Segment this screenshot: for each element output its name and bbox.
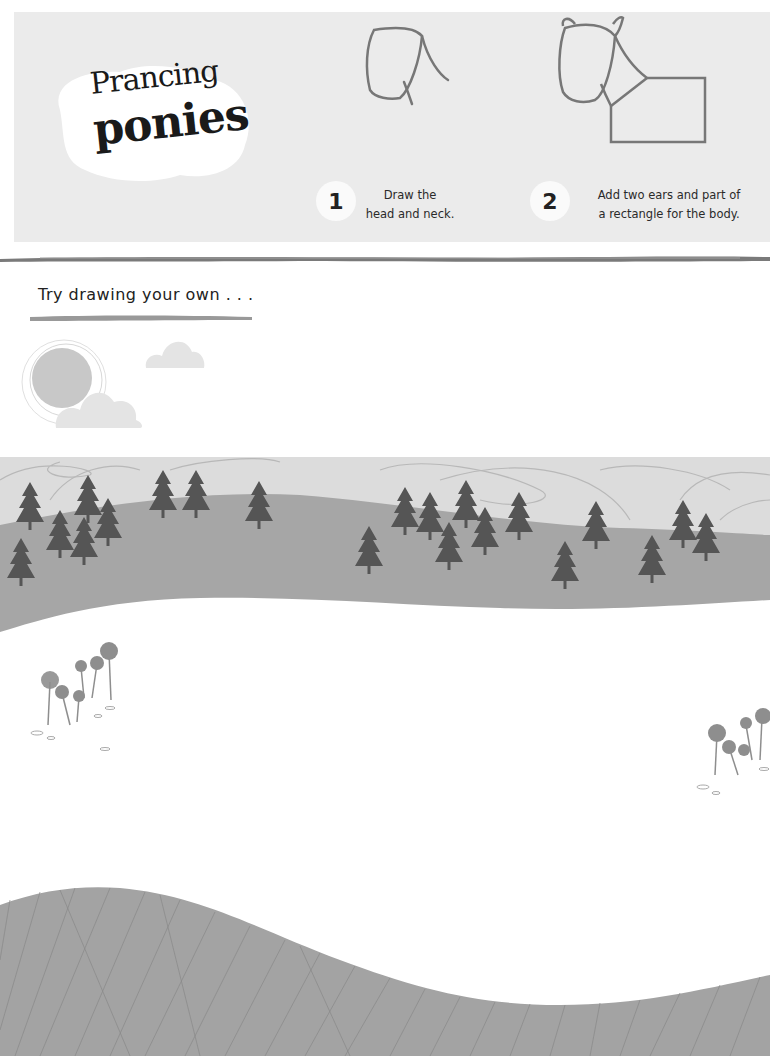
landscape-illustration: [0, 0, 770, 1056]
ground: [0, 887, 770, 1056]
cloud-icon: [146, 342, 205, 368]
flower-cluster: [31, 642, 118, 751]
flower-cluster: [697, 708, 770, 795]
